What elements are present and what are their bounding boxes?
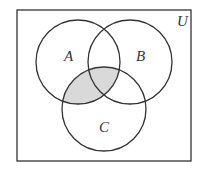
label-b: B	[136, 48, 145, 64]
label-a: A	[63, 48, 74, 64]
label-universe: U	[177, 13, 189, 29]
label-c: C	[99, 119, 110, 135]
venn-diagram: A B C U	[0, 0, 205, 171]
